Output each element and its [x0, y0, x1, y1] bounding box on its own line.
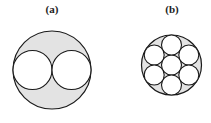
panel-a-label: (a) — [46, 3, 59, 16]
inner-circle — [179, 45, 199, 65]
panel-a: (a) — [13, 3, 91, 109]
circle-packing-figure: (a) (b) — [0, 0, 211, 123]
inner-circle — [162, 75, 182, 95]
inner-circle — [13, 51, 52, 90]
inner-circle — [162, 55, 182, 75]
inner-circle — [144, 45, 164, 65]
panel-b-label: (b) — [165, 3, 179, 16]
inner-circle — [52, 51, 91, 90]
inner-circle — [144, 65, 164, 85]
inner-circle — [179, 65, 199, 85]
panel-b: (b) — [142, 3, 202, 95]
inner-circle — [162, 35, 182, 55]
